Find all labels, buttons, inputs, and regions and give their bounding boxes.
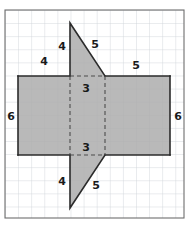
label-top-triangle-vertical-leg: 4: [58, 41, 66, 52]
label-rectangle-right-side: 6: [174, 111, 182, 122]
central-rectangle-fill: [18, 76, 170, 155]
geometry-figure-svg: [0, 0, 188, 226]
label-rectangle-top-left-segment: 4: [40, 56, 48, 67]
label-rectangle-top-right-segment: 5: [132, 60, 140, 71]
label-bottom-triangle-vertical-leg: 4: [58, 176, 66, 187]
label-bottom-triangle-base: 3: [82, 142, 90, 153]
label-top-triangle-hypotenuse: 5: [91, 39, 99, 50]
figure-canvas: 4 5 4 5 3 6 6 3 4 5: [0, 0, 188, 226]
label-rectangle-left-side: 6: [7, 111, 15, 122]
label-bottom-triangle-hypotenuse: 5: [92, 180, 100, 191]
label-top-triangle-base: 3: [82, 83, 90, 94]
